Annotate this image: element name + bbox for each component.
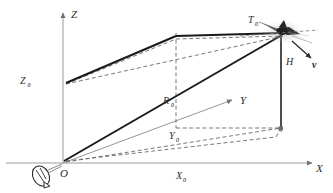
z0-label-sub: 0 xyxy=(28,82,31,88)
x0-label-main: X xyxy=(175,170,183,181)
range-line-r0 xyxy=(64,35,282,161)
diagram-canvas: Z Y X O T 0 Z 0 R 0 Y 0 xyxy=(0,0,333,193)
dash-z0-to-target xyxy=(66,36,283,84)
h-label: H xyxy=(285,56,294,67)
y0-label-main: Y xyxy=(169,130,176,141)
z0-top-edge-line xyxy=(66,36,176,83)
r0-label: R 0 xyxy=(162,95,174,108)
x0-label-sub: 0 xyxy=(183,177,186,183)
target-label-main: T xyxy=(248,14,255,25)
r0-label-sub: 0 xyxy=(171,102,174,108)
y0-label-sub: 0 xyxy=(176,137,179,143)
target-label: T 0 xyxy=(248,14,258,27)
aircraft-icon xyxy=(262,20,312,44)
z-axis-label: Z xyxy=(71,8,78,20)
velocity-label: v xyxy=(312,59,317,70)
y-axis-line xyxy=(63,100,232,163)
y0-label: Y 0 xyxy=(169,130,179,143)
z0-label: Z 0 xyxy=(20,75,31,88)
y-axis-label: Y xyxy=(240,94,248,106)
target-label-sub: 0 xyxy=(255,21,258,27)
x-axis-label: X xyxy=(315,162,324,174)
velocity-vector-arrow xyxy=(292,41,311,58)
r0-label-main: R xyxy=(162,95,169,106)
coordinate-system-diagram: Z Y X O T 0 Z 0 R 0 Y 0 xyxy=(0,0,333,193)
origin-label: O xyxy=(60,167,68,179)
radar-antenna-icon xyxy=(29,163,62,189)
h-base-marker xyxy=(279,127,284,131)
x0-label: X 0 xyxy=(175,170,186,183)
dash-z0-to-topmid xyxy=(66,39,176,84)
primary-lines-group xyxy=(64,33,283,161)
z0-label-main: Z xyxy=(20,75,26,86)
